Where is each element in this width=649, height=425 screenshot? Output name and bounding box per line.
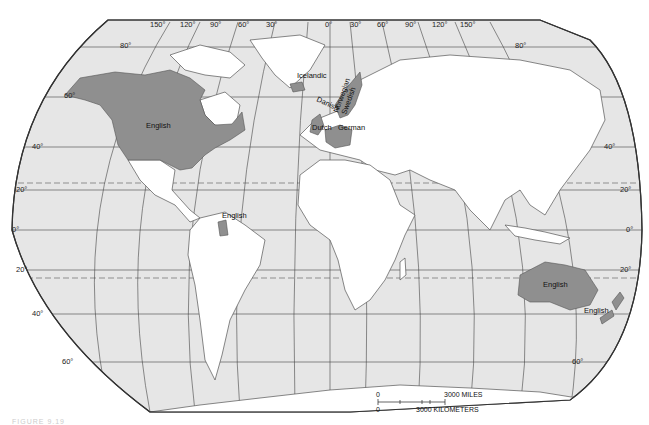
- svg-text:40°: 40°: [32, 309, 43, 318]
- label-dutch: Dutch: [312, 123, 332, 132]
- svg-text:150°: 150°: [150, 20, 166, 29]
- label-english-guyana: English: [222, 211, 247, 220]
- svg-text:0°: 0°: [626, 225, 633, 234]
- svg-text:0: 0: [376, 391, 380, 398]
- svg-text:150°: 150°: [460, 20, 476, 29]
- svg-text:90°: 90°: [405, 20, 416, 29]
- label-german: German: [338, 123, 365, 132]
- svg-text:40°: 40°: [32, 142, 43, 151]
- svg-text:0°: 0°: [325, 20, 332, 29]
- label-icelandic: Icelandic: [297, 71, 327, 80]
- label-english-north-america: English: [146, 121, 171, 130]
- region-english-guyana: [218, 220, 228, 236]
- region-icelandic: [290, 82, 305, 92]
- svg-text:30°: 30°: [266, 20, 277, 29]
- svg-text:60°: 60°: [377, 20, 388, 29]
- label-english-australia: English: [543, 280, 568, 289]
- svg-text:90°: 90°: [210, 20, 221, 29]
- figure-caption: FIGURE 9.19: [12, 418, 65, 425]
- svg-text:20°: 20°: [620, 185, 631, 194]
- svg-text:40°: 40°: [604, 142, 615, 151]
- svg-text:120°: 120°: [180, 20, 196, 29]
- svg-text:60°: 60°: [62, 357, 73, 366]
- world-map: 150° 120° 90° 60° 30° 0° 30° 60° 90° 120…: [0, 0, 649, 425]
- svg-text:120°: 120°: [432, 20, 448, 29]
- svg-text:3000 MILES: 3000 MILES: [444, 391, 483, 398]
- svg-text:0: 0: [376, 406, 380, 413]
- svg-text:60°: 60°: [64, 91, 75, 100]
- svg-text:20°: 20°: [620, 265, 631, 274]
- svg-text:30°: 30°: [350, 20, 361, 29]
- svg-text:80°: 80°: [515, 41, 526, 50]
- svg-text:0°: 0°: [12, 225, 19, 234]
- svg-text:80°: 80°: [120, 41, 131, 50]
- svg-text:20°: 20°: [16, 265, 27, 274]
- svg-text:20°: 20°: [16, 185, 27, 194]
- svg-text:60°: 60°: [238, 20, 249, 29]
- label-english-new-zealand: English: [584, 306, 609, 315]
- svg-text:3000 KILOMETERS: 3000 KILOMETERS: [416, 406, 479, 413]
- svg-text:60°: 60°: [572, 357, 583, 366]
